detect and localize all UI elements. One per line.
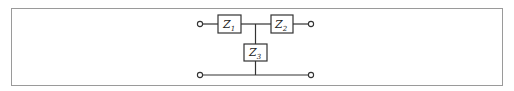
terminal-output-top-icon (308, 21, 313, 26)
impedance-z1: Z1 (218, 15, 241, 33)
terminal-input-top-icon (197, 21, 202, 26)
impedance-z2: Z2 (271, 15, 293, 33)
terminal-output-bottom-icon (308, 72, 313, 77)
t-network-circuit: Z1 Z2 Z3 (0, 0, 514, 91)
impedance-z3: Z3 (244, 44, 267, 61)
terminal-input-bottom-icon (197, 72, 202, 77)
